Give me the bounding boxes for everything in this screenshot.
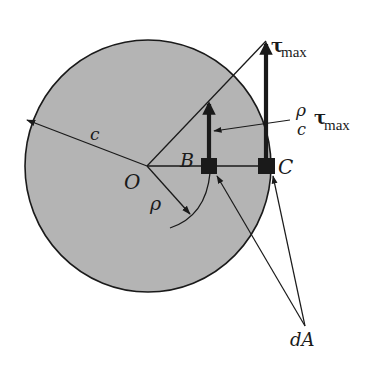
torsion-diagram: c O ρ B C dA τ max ρ c τ max xyxy=(0,0,381,373)
label-point-c: C xyxy=(278,155,293,179)
fraction-tau-subscript: max xyxy=(324,117,350,133)
tau-subscript: max xyxy=(281,44,307,60)
fraction-denominator: c xyxy=(297,120,306,139)
fraction-numerator: ρ xyxy=(295,100,306,120)
label-area-element-da: dA xyxy=(290,329,315,350)
label-rho: ρ xyxy=(149,192,162,214)
area-element-c xyxy=(258,158,275,174)
label-point-b: B xyxy=(179,149,194,171)
label-fraction-tau-max: ρ c τ max xyxy=(295,100,350,139)
label-radius-c: c xyxy=(90,124,100,144)
da-leader-c xyxy=(273,176,305,326)
area-element-b xyxy=(201,158,217,174)
label-tau-max: τ max xyxy=(271,35,307,60)
label-center-o: O xyxy=(124,170,140,194)
